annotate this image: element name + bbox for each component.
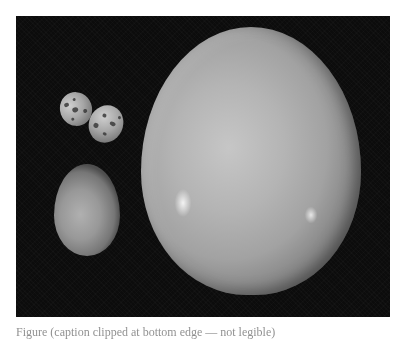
egg-comparison-photo: [16, 16, 390, 317]
figure-caption: Figure (caption clipped at bottom edge —…: [16, 325, 390, 339]
ostrich-egg: [141, 27, 361, 295]
chicken-egg: [54, 164, 120, 256]
